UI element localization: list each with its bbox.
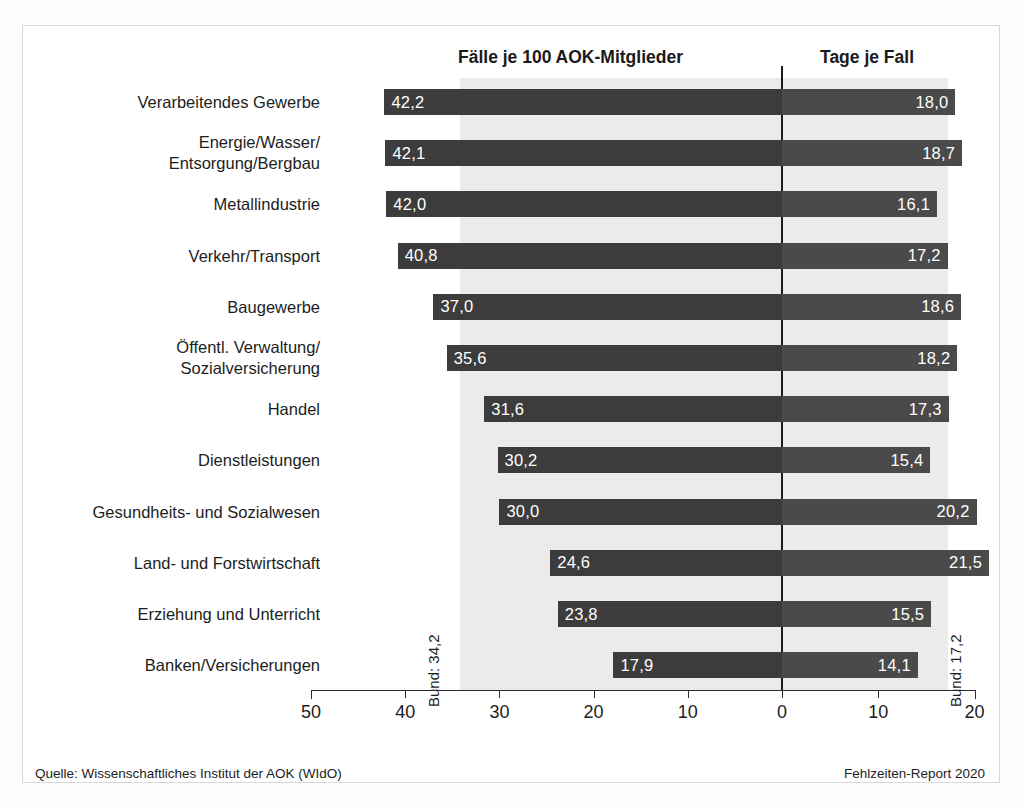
axis-tick-mark	[405, 690, 406, 698]
bar-days: 17,3	[782, 396, 949, 422]
report-note: Fehlzeiten-Report 2020	[844, 766, 985, 781]
bar-cases: 17,9	[613, 652, 782, 678]
axis-tick-mark	[594, 690, 595, 698]
axis-tick-label: 20	[965, 702, 985, 723]
axis-tick-label: 50	[301, 702, 321, 723]
chart-row: Verkehr/Transport40,817,2	[0, 230, 1027, 282]
chart-figure: Fälle je 100 AOK-Mitglieder Tage je Fall…	[0, 0, 1027, 811]
axis-tick-mark	[782, 690, 783, 698]
chart-row: Metallindustrie42,016,1	[0, 178, 1027, 230]
bar-days: 20,2	[782, 499, 977, 525]
axis-tick-mark	[499, 690, 500, 698]
bar-cases: 23,8	[558, 601, 782, 627]
bar-days: 14,1	[782, 652, 918, 678]
bar-cases: 30,0	[499, 499, 782, 525]
bar-cases: 35,6	[447, 345, 782, 371]
bar-cases: 42,2	[384, 89, 782, 115]
axis-tick-mark	[878, 690, 879, 698]
bar-value-label: 18,6	[921, 297, 954, 316]
axis-tick-label: 40	[395, 702, 415, 723]
bar-value-label: 37,0	[440, 297, 473, 316]
chart-row: Verarbeitendes Gewerbe42,218,0	[0, 76, 1027, 128]
category-label: Metallindustrie	[10, 194, 320, 215]
axis-tick-mark	[688, 690, 689, 698]
chart-row: Erziehung und Unterricht23,815,5	[0, 588, 1027, 640]
bar-value-label: 30,2	[505, 451, 538, 470]
chart-row: Gesundheits- und Sozialwesen30,020,2	[0, 486, 1027, 538]
category-label: Dienstleistungen	[10, 450, 320, 471]
category-label: Verarbeitendes Gewerbe	[10, 92, 320, 113]
bar-value-label: 20,2	[937, 502, 970, 521]
bund-label-left: Bund: 34,2	[425, 634, 442, 707]
category-label: Land- und Forstwirtschaft	[10, 552, 320, 573]
axis-tick-label: 10	[678, 702, 698, 723]
category-label: Öffentl. Verwaltung/ Sozialversicherung	[10, 337, 320, 379]
bar-value-label: 35,6	[454, 349, 487, 368]
bar-cases: 30,2	[498, 447, 782, 473]
bar-days: 16,1	[782, 191, 937, 217]
category-label: Banken/Versicherungen	[10, 655, 320, 676]
bar-value-label: 18,2	[917, 349, 950, 368]
bar-value-label: 23,8	[565, 605, 598, 624]
bar-value-label: 24,6	[557, 553, 590, 572]
x-axis-line	[311, 690, 976, 691]
bar-value-label: 15,4	[890, 451, 923, 470]
category-label: Handel	[10, 399, 320, 420]
bar-cases: 24,6	[550, 550, 782, 576]
bar-value-label: 15,5	[891, 605, 924, 624]
bar-days: 15,4	[782, 447, 930, 473]
bar-days: 18,7	[782, 140, 962, 166]
bund-label-right: Bund: 17,2	[947, 634, 964, 707]
bar-value-label: 42,1	[392, 144, 425, 163]
category-label: Baugewerbe	[10, 296, 320, 317]
bar-days: 18,2	[782, 345, 957, 371]
chart-row: Banken/Versicherungen17,914,1	[0, 639, 1027, 691]
bar-days: 18,6	[782, 294, 961, 320]
bar-cases: 37,0	[433, 294, 782, 320]
bar-days: 17,2	[782, 243, 948, 269]
chart-row: Energie/Wasser/ Entsorgung/Bergbau42,118…	[0, 127, 1027, 179]
bar-value-label: 17,3	[909, 400, 942, 419]
bar-cases: 42,0	[386, 191, 782, 217]
bar-value-label: 31,6	[491, 400, 524, 419]
chart-row: Öffentl. Verwaltung/ Sozialversicherung3…	[0, 332, 1027, 384]
bar-days: 18,0	[782, 89, 955, 115]
source-note: Quelle: Wissenschaftliches Institut der …	[35, 766, 342, 781]
bar-value-label: 17,2	[908, 246, 941, 265]
bar-value-label: 18,7	[922, 144, 955, 163]
chart-row: Baugewerbe37,018,6	[0, 281, 1027, 333]
chart-row: Land- und Forstwirtschaft24,621,5	[0, 537, 1027, 589]
bar-days: 21,5	[782, 550, 989, 576]
category-label: Gesundheits- und Sozialwesen	[10, 501, 320, 522]
category-label: Verkehr/Transport	[10, 245, 320, 266]
bar-value-label: 40,8	[405, 246, 438, 265]
bar-value-label: 42,0	[393, 195, 426, 214]
bar-cases: 42,1	[385, 140, 782, 166]
chart-row: Dienstleistungen30,215,4	[0, 434, 1027, 486]
bar-cases: 40,8	[398, 243, 782, 269]
bar-cases: 31,6	[484, 396, 782, 422]
bar-days: 15,5	[782, 601, 931, 627]
bar-value-label: 42,2	[391, 93, 424, 112]
bar-value-label: 30,0	[506, 502, 539, 521]
axis-tick-label: 20	[584, 702, 604, 723]
axis-tick-mark	[311, 690, 312, 699]
bar-value-label: 16,1	[897, 195, 930, 214]
axis-tick-label: 30	[489, 702, 509, 723]
bar-value-label: 21,5	[949, 553, 982, 572]
bar-value-label: 18,0	[915, 93, 948, 112]
axis-tick-label: 10	[868, 702, 888, 723]
category-label: Erziehung und Unterricht	[10, 604, 320, 625]
bar-value-label: 17,9	[620, 656, 653, 675]
bar-value-label: 14,1	[878, 656, 911, 675]
category-label: Energie/Wasser/ Entsorgung/Bergbau	[10, 132, 320, 174]
chart-row: Handel31,617,3	[0, 383, 1027, 435]
axis-tick-label: 0	[777, 702, 787, 723]
axis-tick-mark	[975, 690, 976, 699]
